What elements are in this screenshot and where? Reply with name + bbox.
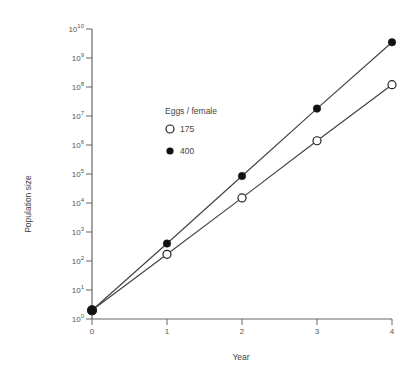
y-tick-label: 107 [72, 110, 85, 121]
y-tick-label: 102 [72, 255, 85, 266]
open-circle-marker [163, 250, 171, 258]
y-tick-label: 108 [72, 81, 85, 92]
y-tick-label: 1010 [68, 23, 84, 34]
y-tick-label: 106 [72, 139, 85, 150]
population-chart: 100101102103104105106107108109101001234 … [0, 0, 419, 377]
filled-circle-marker [388, 38, 396, 46]
legend-filled-circle-icon [166, 147, 173, 154]
x-tick-label: 4 [390, 327, 395, 336]
y-tick-label: 101 [72, 284, 85, 295]
x-tick-label: 2 [240, 327, 245, 336]
filled-circle-marker [163, 240, 171, 248]
y-axis-title: Population size [23, 175, 33, 233]
open-circle-marker [388, 81, 396, 89]
legend-label-400: 400 [180, 146, 194, 156]
filled-circle-marker [238, 172, 246, 180]
axes: 100101102103104105106107108109101001234 [68, 23, 394, 336]
x-tick-label: 3 [315, 327, 320, 336]
series-group [88, 38, 397, 314]
y-tick-label: 105 [72, 168, 85, 179]
y-tick-label: 104 [72, 197, 85, 208]
filled-circle-marker [313, 105, 321, 113]
legend-open-circle-icon [166, 125, 174, 133]
legend-label-175: 175 [180, 124, 194, 134]
x-tick-label: 0 [90, 327, 95, 336]
open-circle-marker [238, 194, 246, 202]
filled-circle-marker [88, 306, 97, 315]
y-tick-label: 100 [72, 313, 85, 324]
x-axis-title: Year [232, 352, 249, 362]
legend: Eggs / female 175 400 [165, 106, 217, 156]
x-tick-label: 1 [165, 327, 170, 336]
legend-title: Eggs / female [165, 106, 217, 116]
y-tick-label: 109 [72, 52, 85, 63]
y-tick-label: 103 [72, 226, 85, 237]
open-circle-marker [313, 137, 321, 145]
